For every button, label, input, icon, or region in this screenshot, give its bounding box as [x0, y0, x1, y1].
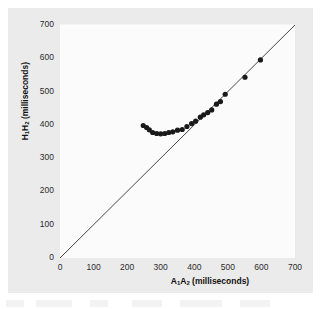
data-point	[180, 127, 185, 132]
x-tick-label-200: 200	[112, 263, 142, 272]
x-tick-label-400: 400	[179, 263, 209, 272]
data-point	[218, 99, 223, 104]
data-point	[184, 124, 189, 129]
y-axis-title-sub1: 1	[24, 131, 30, 134]
x-tick-label-700: 700	[280, 263, 310, 272]
x-tick-label-0: 0	[45, 263, 75, 272]
scatter-plot-figure: 0100200300400500600700 01002003004005006…	[0, 0, 321, 309]
x-tick-label-600: 600	[246, 263, 276, 272]
data-point	[258, 57, 263, 62]
x-tick-label-500: 500	[213, 263, 243, 272]
y-tick-label-0: 0	[28, 253, 54, 262]
plot-svg	[60, 25, 295, 258]
data-point	[223, 92, 228, 97]
data-point	[175, 128, 180, 133]
x-tick-label-300: 300	[146, 263, 176, 272]
y-tick-label-700: 700	[28, 20, 54, 29]
y-tick-label-500: 500	[28, 87, 54, 96]
data-point	[242, 75, 247, 80]
data-point	[209, 107, 214, 112]
y-tick-label-400: 400	[28, 120, 54, 129]
data-point	[170, 129, 175, 134]
y-axis-title: H1H2 (milliseconds)	[20, 26, 30, 176]
y-tick-label-200: 200	[28, 186, 54, 195]
y-tick-label-100: 100	[28, 220, 54, 229]
y-axis-title-prefix: H	[20, 134, 30, 140]
x-axis-title: A1A2 (milliseconds)	[120, 276, 300, 286]
x-axis-title-suffix: (milliseconds)	[190, 276, 250, 286]
data-point	[193, 119, 198, 124]
y-axis-title-suffix: (milliseconds)	[20, 62, 30, 122]
cropped-caption-artifact	[6, 300, 306, 307]
plot-area	[60, 24, 295, 258]
y-axis-title-mid: H	[20, 125, 30, 131]
y-tick-label-600: 600	[28, 53, 54, 62]
x-tick-label-100: 100	[79, 263, 109, 272]
data-point-series	[141, 57, 263, 136]
y-tick-label-300: 300	[28, 153, 54, 162]
y-axis-title-sub2: 2	[24, 121, 30, 124]
